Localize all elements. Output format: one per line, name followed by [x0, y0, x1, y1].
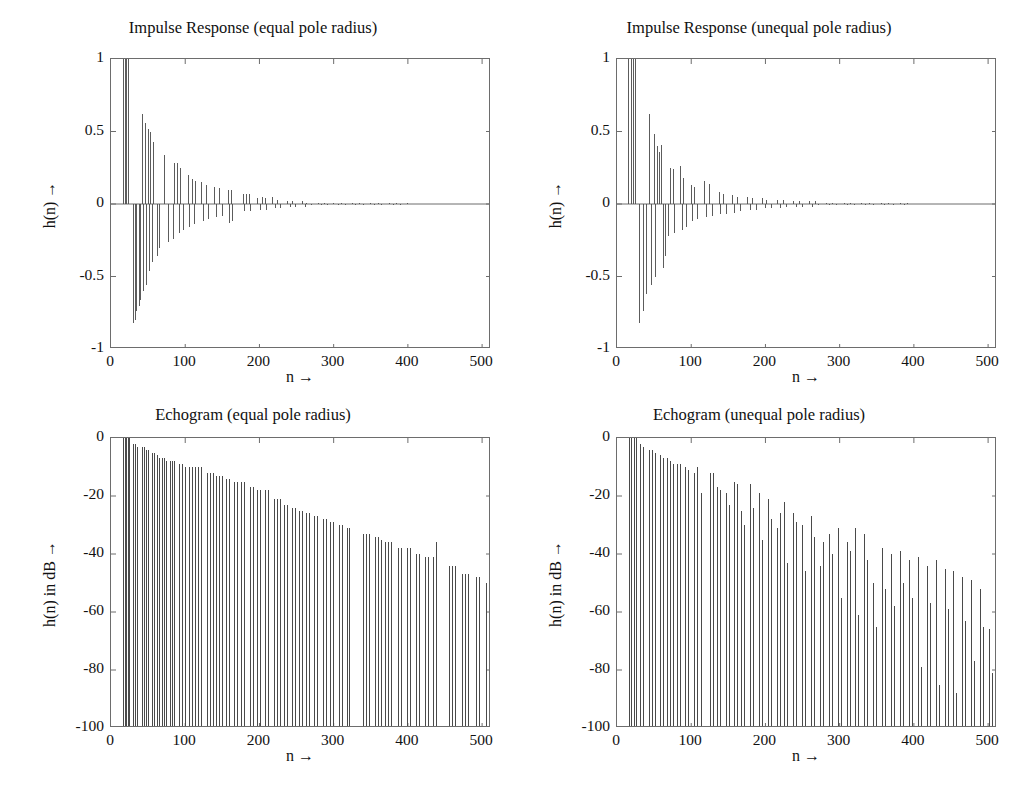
impulse-equal-stems	[111, 59, 490, 348]
x-tick-label: 200	[734, 731, 794, 749]
y-axis-label: h(n) in dB →	[547, 504, 565, 664]
x-tick-label: 500	[957, 352, 1012, 370]
plot-area	[616, 437, 996, 727]
x-tick-label: 200	[228, 352, 288, 370]
x-tick-label: 500	[957, 731, 1012, 749]
x-tick-label: 300	[809, 352, 869, 370]
y-tick-label: 0	[554, 427, 610, 445]
y-tick-label: 1	[48, 48, 104, 66]
x-tick-label: 300	[303, 731, 363, 749]
x-tick-label: 500	[451, 352, 511, 370]
y-tick-label: 1	[554, 48, 610, 66]
x-tick-label: 0	[586, 352, 646, 370]
x-tick-label: 100	[660, 352, 720, 370]
panel-title: Echogram (unequal pole radius)	[506, 405, 1012, 425]
y-tick-label: 0	[48, 427, 104, 445]
y-tick-label: -80	[48, 659, 104, 677]
x-tick-label: 500	[451, 731, 511, 749]
x-tick-label: 100	[154, 352, 214, 370]
y-tick-label: -40	[48, 543, 104, 561]
impulse-unequal-stems	[617, 59, 996, 348]
x-tick-label: 400	[883, 731, 943, 749]
x-tick-label: 400	[377, 731, 437, 749]
y-tick-label: 0	[48, 193, 104, 211]
y-tick-label: -20	[554, 485, 610, 503]
x-tick-label: 100	[660, 731, 720, 749]
x-tick-label: 400	[377, 352, 437, 370]
y-tick-label: -0.5	[554, 266, 610, 284]
plot-area	[616, 58, 996, 348]
x-tick-label: 0	[80, 731, 140, 749]
x-tick-label: 300	[809, 731, 869, 749]
y-tick-label: -60	[48, 601, 104, 619]
x-axis-label: n →	[616, 368, 996, 386]
panel-echogram-unequal: Echogram (unequal pole radius) h(n) in d…	[506, 405, 1012, 795]
y-tick-label: 0.5	[48, 121, 104, 139]
panel-title: Impulse Response (unequal pole radius)	[506, 18, 1012, 38]
plot-area	[110, 58, 490, 348]
y-tick-label: -0.5	[48, 266, 104, 284]
x-axis-label: n →	[110, 368, 490, 386]
plot-area	[110, 437, 490, 727]
panel-title: Impulse Response (equal pole radius)	[0, 18, 506, 38]
figure-root: Impulse Response (equal pole radius) h(n…	[0, 0, 1012, 812]
y-tick-label: -80	[554, 659, 610, 677]
panel-echogram-equal: Echogram (equal pole radius) h(n) in dB …	[0, 405, 506, 795]
panel-impulse-equal: Impulse Response (equal pole radius) h(n…	[0, 18, 506, 398]
y-tick-label: -20	[48, 485, 104, 503]
panel-title: Echogram (equal pole radius)	[0, 405, 506, 425]
x-tick-label: 100	[154, 731, 214, 749]
x-tick-label: 0	[80, 352, 140, 370]
x-tick-label: 0	[586, 731, 646, 749]
y-tick-label: -40	[554, 543, 610, 561]
echogram-unequal-stems	[617, 438, 996, 727]
x-tick-label: 200	[228, 731, 288, 749]
x-tick-label: 400	[883, 352, 943, 370]
x-axis-label: n →	[616, 747, 996, 765]
y-tick-label: 0.5	[554, 121, 610, 139]
panel-impulse-unequal: Impulse Response (unequal pole radius) h…	[506, 18, 1012, 398]
x-axis-label: n →	[110, 747, 490, 765]
x-tick-label: 300	[303, 352, 363, 370]
y-tick-label: -60	[554, 601, 610, 619]
echogram-equal-stems	[111, 438, 490, 727]
y-axis-label: h(n) in dB →	[41, 504, 59, 664]
x-tick-label: 200	[734, 352, 794, 370]
y-tick-label: 0	[554, 193, 610, 211]
